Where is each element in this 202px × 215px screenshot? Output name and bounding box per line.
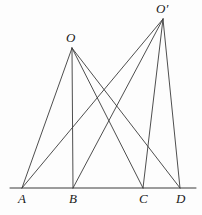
vertex-label-o: O: [66, 31, 75, 44]
segment-group: [22, 19, 180, 188]
segment-Oprime-B: [73, 19, 163, 188]
vertex-label-a: A: [18, 192, 26, 205]
vertex-label-c: C: [139, 192, 148, 205]
vertex-label-d: D: [176, 192, 185, 205]
geometry-figure: A B C D O O′: [0, 0, 202, 215]
vertex-label-b: B: [69, 192, 77, 205]
segment-Oprime-A: [22, 19, 163, 188]
segment-Oprime-D: [163, 19, 180, 188]
segment-O-C: [72, 48, 143, 188]
vertex-label-o-prime: O′: [156, 2, 168, 15]
figure-canvas: [0, 0, 202, 215]
segment-O-A: [22, 48, 72, 188]
segment-O-B: [72, 48, 73, 188]
segment-O-D: [72, 48, 180, 188]
